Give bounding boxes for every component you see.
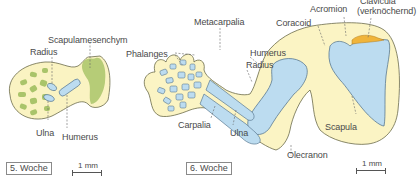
label-acromion: Acromion (310, 4, 347, 14)
week6-scale-bar: 1 mm (356, 158, 388, 174)
label-phalanges: Phalanges (126, 49, 168, 59)
scale-bar-line (356, 170, 386, 171)
week6-limb (144, 17, 399, 156)
label-radius-week5: Radius (30, 47, 57, 57)
label-ulna-week6: Ulna (230, 128, 248, 138)
scale-bar-line (72, 172, 102, 173)
week5-label-box: 5. Woche (6, 162, 52, 175)
label-olecranon: Olecranon (287, 150, 328, 160)
label-humerus-week5: Humerus (62, 132, 98, 142)
label-carpalia: Carpalia (178, 120, 211, 130)
scale-label: 1 mm (78, 161, 98, 170)
label-coracoid: Coracoid (276, 18, 311, 28)
label-humerus-week6: Humerus (250, 48, 286, 58)
label-metacarpalia: Metacarpalia (194, 17, 244, 27)
week5-limb-bud (9, 42, 110, 128)
label-clavicula-note: (verknöchernd) (357, 6, 416, 16)
week6-label-box: 6. Woche (186, 162, 232, 175)
label-ulna-week5: Ulna (36, 128, 54, 138)
label-scapula: Scapula (325, 122, 357, 132)
week5-scale-bar: 1 mm (72, 160, 104, 176)
label-scapulamesenchym: Scapulamesenchym (48, 35, 127, 45)
label-radius-week6: Radius (246, 60, 273, 70)
embryonic-limb-development-diagram: Scapulamesenchym Radius Ulna Humerus 5. … (0, 0, 419, 186)
scale-label: 1 mm (362, 159, 382, 168)
